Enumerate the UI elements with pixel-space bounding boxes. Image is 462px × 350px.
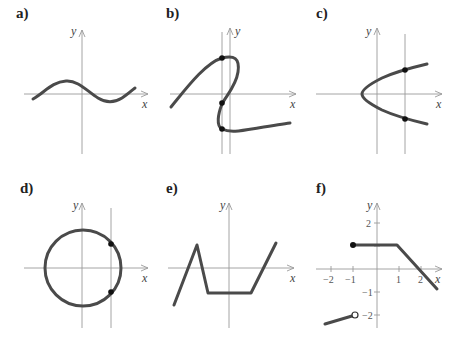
x-tick-label: 1 <box>396 274 401 285</box>
panel-a: a) x y <box>16 5 148 154</box>
curve-upper <box>353 245 437 289</box>
x-axis-label: x <box>434 272 441 286</box>
y-axis-label: y <box>72 198 79 212</box>
intersection-point <box>402 67 408 73</box>
intersection-point <box>219 126 225 132</box>
intersection-point <box>108 289 114 295</box>
x-axis-label: x <box>141 97 148 111</box>
x-tick-label: 2 <box>418 274 423 285</box>
x-tick-label: −1 <box>345 274 356 285</box>
panel-b-label: b) <box>166 5 179 22</box>
intersection-point <box>108 241 114 247</box>
figure-canvas: a) x y b) x y c) x y d) x y <box>0 0 462 350</box>
panel-d: d) x y <box>20 180 148 328</box>
panel-c: c) x y <box>316 5 442 154</box>
x-axis-label: x <box>289 97 296 111</box>
intersection-point <box>219 100 225 106</box>
y-axis-label: y <box>365 24 372 38</box>
panel-f-label: f) <box>316 180 326 197</box>
panel-e: e) x y <box>166 180 296 328</box>
panel-c-label: c) <box>316 5 328 22</box>
y-tick-label: 2 <box>366 218 371 229</box>
panel-e-label: e) <box>166 180 178 197</box>
panel-a-label: a) <box>16 5 29 22</box>
panel-f: f) x y −2 −1 1 2 2 −1 −2 <box>316 180 442 328</box>
intersection-point <box>219 55 225 61</box>
panel-d-label: d) <box>20 180 33 197</box>
x-axis-label: x <box>141 271 148 285</box>
x-tick-label: −2 <box>323 274 334 285</box>
curve <box>33 81 135 102</box>
y-axis-label: y <box>234 24 241 38</box>
x-axis-label: x <box>435 97 442 111</box>
x-axis-label: x <box>289 271 296 285</box>
y-tick-label: −2 <box>362 310 373 321</box>
y-tick-label: −1 <box>362 287 373 298</box>
y-axis-label: y <box>70 24 77 38</box>
closed-dot <box>350 242 356 248</box>
y-axis-label: y <box>366 198 373 212</box>
curve <box>174 243 276 305</box>
curve-lower <box>325 316 352 324</box>
panel-b: b) x y <box>166 5 296 154</box>
y-axis-label: y <box>219 198 226 212</box>
open-dot <box>352 312 358 318</box>
intersection-point <box>402 116 408 122</box>
